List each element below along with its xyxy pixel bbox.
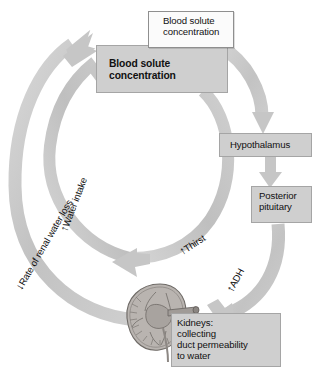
box-kidneys[interactable]: Kidneys: collecting duct permeability to…: [171, 313, 281, 367]
box-hypothalamus[interactable]: Hypothalamus: [219, 133, 312, 157]
box-posterior-pituitary-text: Posterior pituitary: [259, 191, 311, 213]
box-blood-solute-concentration[interactable]: Blood solute concentration: [96, 45, 228, 93]
arrow-to-pituitary: [259, 157, 282, 188]
arrow-to-hypothalamus: [221, 47, 274, 134]
box-blood-solute-concentration-text: Blood solute concentration: [109, 58, 227, 81]
water-balance-feedback-diagram: Blood solute concentration ↑ Blood solut…: [0, 0, 332, 382]
box-hypothalamus-text: Hypothalamus: [230, 140, 311, 151]
box-blood-solute-increase[interactable]: Blood solute concentration: [148, 11, 234, 48]
box-posterior-pituitary[interactable]: Posterior pituitary: [251, 186, 312, 223]
box-blood-solute-increase-text: Blood solute concentration: [163, 16, 230, 38]
arrow-thirst: [112, 91, 228, 277]
box-kidneys-text: Kidneys: collecting duct permeability to…: [177, 318, 280, 362]
